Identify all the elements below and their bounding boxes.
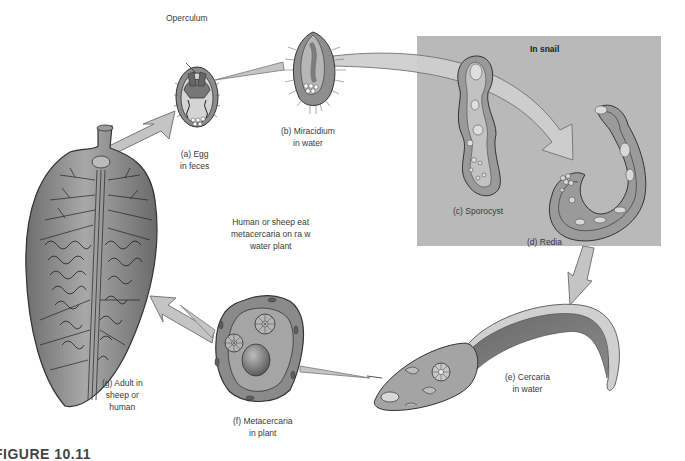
life-cycle-diagram: In snail [0,0,685,461]
arrow-cercaria-to-metacercaria [300,366,382,378]
stage-a-title: (a) Egg [180,148,209,160]
transmission-note-line-1: Human or sheep eat [231,216,310,228]
stage-f-subtitle: in plant [233,427,293,439]
stage-b-subtitle: in water [281,137,335,149]
stage-g-label: (g) Adult in sheep or human [102,377,143,413]
stage-a-label: (a) Egg in feces [180,148,209,172]
stage-e-label: (e) Cercaria in water [505,371,550,395]
miracidium-illustration [283,32,346,114]
cercaria-illustration [374,304,619,410]
stage-g-title: (g) Adult in [102,377,143,389]
arrow-miracidium-to-redia [333,53,573,160]
adult-fluke-illustration [26,125,157,406]
stage-b-label: (b) Miracidium in water [281,125,335,149]
arrow-metacercaria-to-adult [150,296,214,343]
stage-f-label: (f) Metacercaria in plant [233,415,293,439]
figure-caption: FIGURE 10.11 [0,446,91,461]
stage-g-subtitle: sheep or [102,389,143,401]
operculum-label: Operculum [166,12,208,24]
stage-a-subtitle: in feces [180,160,209,172]
stage-e-title: (e) Cercaria [505,371,550,383]
transmission-note: Human or sheep eat metacercaria on ra w … [231,216,310,252]
stage-c-label: (c) Sporocyst [453,205,503,217]
transmission-note-line-3: water plant [231,240,310,252]
arrow-redia-to-cercaria [568,246,594,305]
transmission-note-line-2: metacercaria on ra w [231,228,310,240]
arrow-adult-to-egg [107,111,175,155]
metacercaria-illustration [215,296,303,402]
egg-illustration [174,63,220,127]
arrow-egg-to-miracidium [215,62,284,80]
stage-b-title: (b) Miracidium [281,125,335,137]
stage-f-title: (f) Metacercaria [233,415,293,427]
stage-e-subtitle: in water [505,383,550,395]
stage-g-subtitle-2: human [102,401,143,413]
redia-illustration [549,105,645,241]
stage-d-label: (d) Redia [527,236,562,248]
